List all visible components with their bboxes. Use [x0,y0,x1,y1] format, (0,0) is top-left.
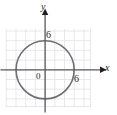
x-axis-tick-label-6: 6 [74,74,79,84]
graph-figure: 6 6 0 x y [0,0,117,115]
origin-label: 0 [36,72,41,81]
y-axis [42,9,48,113]
x-axis-name-label: x [105,63,109,73]
coordinate-plane [0,0,117,115]
y-axis-tick-label-6: 6 [46,30,51,40]
y-axis-name-label: y [41,2,45,12]
